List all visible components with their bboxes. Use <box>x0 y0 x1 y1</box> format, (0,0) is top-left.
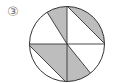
shaded-region-top-right <box>67 2 110 47</box>
circle-diagram <box>0 0 113 83</box>
